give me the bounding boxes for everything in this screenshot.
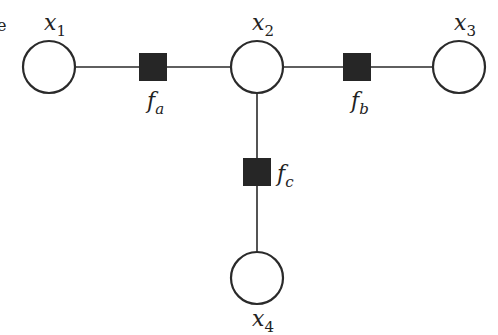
factor-node-fc [243,158,271,186]
factor-label-fb: fb [349,88,369,118]
variable-label-x1: x1 [44,10,66,40]
variable-label-subscript: 2 [264,22,274,40]
variable-node-x2 [231,41,283,93]
factor-node-fb [343,53,371,81]
variable-node-x3 [433,41,485,93]
factor-label-fc: fc [275,161,294,191]
variable-node-x4 [231,252,283,304]
factor-graph-diagram: x1x2x3x4fafbfc e [0,0,498,335]
clipped-text-fragment: e [0,16,6,35]
nodes [23,41,485,304]
factor-label-subscript: a [155,100,164,118]
factor-label-subscript: b [359,100,369,118]
variable-label-x4: x4 [252,306,274,335]
variable-label-subscript: 1 [56,22,66,40]
variable-node-x1 [23,41,75,93]
factor-node-fa [139,53,167,81]
variable-label-subscript: 3 [466,22,476,40]
variable-label-x3: x3 [454,10,476,40]
variable-label-subscript: 4 [264,318,274,335]
variable-label-x2: x2 [252,10,274,40]
factor-label-subscript: c [285,173,294,191]
factor-label-fa: fa [145,88,164,118]
